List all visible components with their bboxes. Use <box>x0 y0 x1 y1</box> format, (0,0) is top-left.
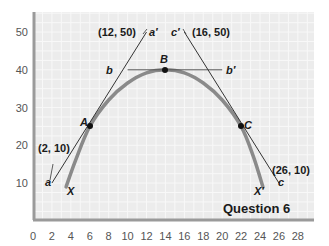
label-X: X <box>66 185 75 197</box>
x-tick-labels: 0246810121416182022242628 <box>30 230 304 242</box>
annotation-2-10: (2, 10) <box>38 142 70 154</box>
x-tick-label: 28 <box>292 230 304 242</box>
x-tick-label: 6 <box>87 230 93 242</box>
label-X-prime: X′ <box>253 185 265 197</box>
x-tick-label: 0 <box>30 230 36 242</box>
y-tick-label: 40 <box>16 64 28 76</box>
annotation-26-10: (26, 10) <box>272 164 310 176</box>
label-B: B <box>160 53 168 65</box>
label-b: b <box>106 64 113 76</box>
label-C: C <box>244 119 253 131</box>
y-tick-labels: 1020304050 <box>16 26 28 189</box>
x-tick-label: 16 <box>178 230 190 242</box>
label-c-prime: c′ <box>171 26 181 38</box>
x-tick-label: 2 <box>49 230 55 242</box>
label-b-prime: b′ <box>226 64 237 76</box>
annotation-16-50: (16, 50) <box>192 26 230 38</box>
x-tick-label: 20 <box>216 230 228 242</box>
x-tick-label: 4 <box>68 230 74 242</box>
x-tick-label: 26 <box>273 230 285 242</box>
x-tick-label: 18 <box>197 230 209 242</box>
x-tick-label: 8 <box>106 230 112 242</box>
chart: 0246810121416182022242628 1020304050 A B… <box>0 0 329 246</box>
x-tick-label: 14 <box>159 230 171 242</box>
x-tick-label: 22 <box>235 230 247 242</box>
y-tick-label: 20 <box>16 139 28 151</box>
label-A: A <box>79 116 88 128</box>
y-tick-label: 10 <box>16 177 28 189</box>
chart-title: Question 6 <box>223 201 290 216</box>
y-tick-label: 50 <box>16 26 28 38</box>
x-tick-label: 12 <box>140 230 152 242</box>
plot-area <box>34 12 314 219</box>
y-tick-label: 30 <box>16 102 28 114</box>
x-tick-label: 10 <box>121 230 133 242</box>
annotation-12-50: (12, 50) <box>98 26 136 38</box>
point-b-marker <box>162 67 168 73</box>
label-a-prime: a′ <box>149 26 159 38</box>
x-tick-label: 24 <box>254 230 266 242</box>
label-c: c <box>278 176 284 188</box>
label-a: a <box>45 176 51 188</box>
